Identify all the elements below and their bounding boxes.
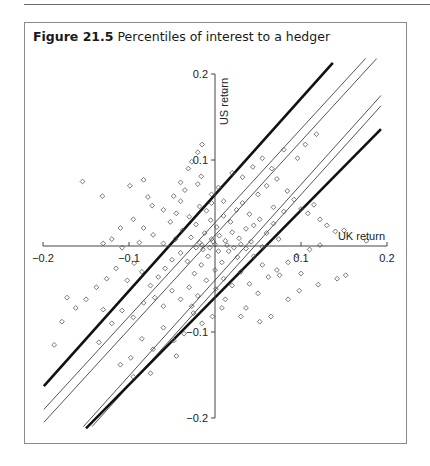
data-point: [219, 260, 224, 265]
data-point: [257, 319, 262, 324]
data-point: [161, 207, 166, 212]
data-point: [257, 217, 262, 222]
data-point: [104, 276, 109, 281]
data-point: [195, 182, 200, 187]
data-point: [161, 241, 166, 246]
data-point: [256, 291, 261, 296]
data-point: [277, 273, 282, 278]
data-point: [52, 343, 57, 348]
data-points: [52, 89, 369, 379]
data-point: [194, 222, 199, 227]
data-point: [174, 211, 179, 216]
data-point: [223, 297, 228, 302]
data-point: [170, 288, 175, 293]
data-point: [335, 276, 340, 281]
data-point: [286, 260, 291, 265]
data-point: [247, 212, 252, 217]
data-point: [163, 266, 168, 271]
data-point: [118, 362, 123, 367]
data-point: [200, 142, 205, 147]
data-point: [324, 223, 329, 228]
data-point: [148, 371, 153, 376]
data-point: [217, 233, 222, 238]
data-point: [299, 271, 304, 276]
data-point: [141, 177, 146, 182]
data-point: [260, 263, 265, 268]
data-point: [269, 314, 274, 319]
data-point: [178, 250, 183, 255]
data-point: [73, 306, 78, 311]
data-point: [318, 243, 323, 248]
data-point: [237, 236, 242, 241]
data-point: [156, 275, 161, 280]
data-point: [316, 282, 321, 287]
data-point: [189, 235, 194, 240]
data-point: [264, 183, 269, 188]
data-point: [206, 254, 211, 259]
data-point: [151, 232, 156, 237]
data-point: [146, 195, 151, 200]
data-point: [161, 304, 166, 309]
data-point: [128, 355, 133, 360]
data-point: [285, 189, 290, 194]
data-point: [250, 164, 255, 169]
data-point: [276, 237, 281, 242]
x-tick-label: 0.1: [293, 252, 308, 264]
scatter-plot: −0.2−0.10.10.20.20.1−0.1−0.2UK returnUS …: [0, 0, 430, 466]
data-point: [210, 314, 215, 319]
y-axis-title: US return: [218, 78, 230, 125]
data-point: [137, 240, 142, 245]
y-tick-label: −0.2: [186, 412, 208, 424]
x-tick-label: −0.1: [118, 252, 140, 264]
data-point: [204, 278, 209, 283]
y-tick-label: −0.1: [186, 326, 208, 338]
data-point: [187, 285, 192, 290]
quantile-line: [44, 59, 366, 410]
data-point: [140, 336, 145, 341]
data-point: [208, 218, 213, 223]
data-point: [343, 273, 348, 278]
data-point: [168, 220, 173, 225]
data-point: [131, 315, 136, 320]
data-point: [100, 194, 105, 199]
data-point: [127, 183, 132, 188]
data-point: [109, 237, 114, 242]
data-point: [238, 314, 243, 319]
data-point: [251, 223, 256, 228]
data-point: [178, 297, 183, 302]
data-point: [197, 204, 202, 209]
data-point: [174, 354, 179, 359]
y-tick-label: 0.1: [193, 154, 208, 166]
data-point: [150, 203, 155, 208]
data-point: [148, 283, 153, 288]
x-tick-label: −0.2: [32, 252, 54, 264]
data-point: [269, 166, 274, 171]
data-point: [60, 319, 65, 324]
data-point: [271, 205, 276, 210]
data-point: [221, 214, 226, 219]
data-point: [266, 275, 271, 280]
data-point: [230, 283, 235, 288]
data-point: [97, 340, 102, 345]
x-tick-label: 0.2: [379, 252, 394, 264]
data-point: [221, 199, 226, 204]
data-point: [183, 188, 188, 193]
data-point: [199, 263, 204, 268]
data-point: [312, 202, 317, 207]
data-point: [219, 306, 224, 311]
data-point: [305, 211, 310, 216]
data-point: [204, 208, 209, 213]
data-point: [226, 249, 231, 254]
data-point: [303, 142, 308, 147]
data-point: [141, 226, 146, 231]
data-point: [94, 285, 99, 290]
data-point: [199, 174, 204, 179]
data-point: [109, 321, 114, 326]
data-point: [101, 307, 106, 312]
y-tick-label: 0.2: [193, 68, 208, 80]
data-point: [297, 288, 302, 293]
data-point: [187, 214, 192, 219]
data-point: [216, 249, 221, 254]
x-axis-title: UK return: [338, 230, 385, 242]
data-point: [295, 156, 300, 161]
